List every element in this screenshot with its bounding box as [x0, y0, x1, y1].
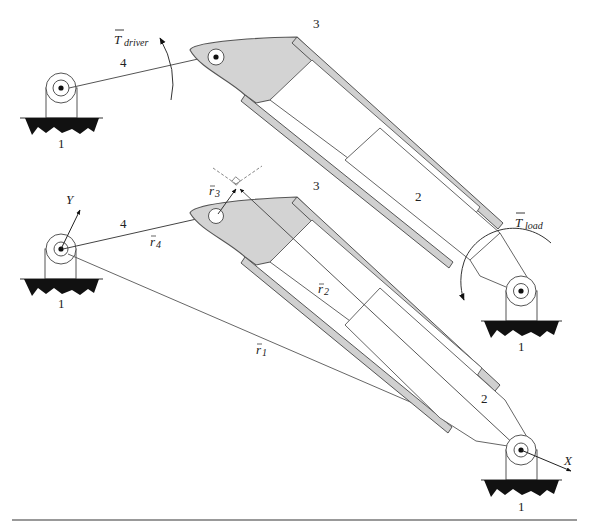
svg-text:3: 3	[214, 188, 220, 199]
svg-text:1: 1	[262, 347, 267, 358]
svg-text:2: 2	[324, 286, 329, 297]
ground-pivot-upper-left: 1	[20, 73, 103, 151]
label-vector-r4: r 4	[150, 234, 161, 250]
mechanism-diagram: 1 4 T driver 3 2	[0, 0, 590, 530]
ground-pivot-lower-left: 1	[20, 234, 103, 311]
label-torque-driver: T driver	[114, 30, 149, 48]
ground-hatch	[484, 480, 559, 497]
svg-text:load: load	[525, 220, 544, 231]
svg-text:4: 4	[156, 239, 161, 250]
label-link-2: 2	[415, 189, 422, 204]
label-ground-1: 1	[58, 296, 65, 311]
label-ground-1: 1	[58, 136, 65, 151]
label-link-3: 3	[313, 178, 320, 193]
ground-hatch	[24, 279, 99, 296]
label-ground-1: 1	[518, 339, 525, 354]
link-4	[69, 57, 207, 88]
svg-text:T: T	[114, 32, 122, 47]
svg-text:T: T	[515, 215, 523, 230]
label-ground-1: 1	[518, 499, 525, 514]
ground-hatch	[484, 321, 559, 338]
label-x-axis: X	[563, 453, 573, 468]
label-link-3: 3	[313, 16, 320, 31]
torque-driver-arrow	[160, 38, 173, 100]
label-vector-r3: r 3	[209, 183, 220, 199]
vector-r4	[63, 216, 210, 249]
ground-pivot-load: 1	[481, 276, 562, 354]
label-torque-load: T load	[515, 213, 544, 231]
label-vector-r1: r 1	[256, 342, 267, 358]
label-link-2: 2	[481, 391, 488, 406]
ground-hatch	[25, 118, 99, 135]
label-y-axis: Y	[66, 192, 75, 207]
svg-text:driver: driver	[124, 37, 149, 48]
ground-pivot-lower-right: 1	[481, 435, 562, 514]
label-link-4: 4	[120, 216, 127, 231]
label-link-4: 4	[120, 55, 127, 70]
